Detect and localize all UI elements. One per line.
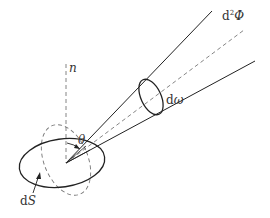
solid-angle-label-omega: ω (174, 93, 184, 107)
inner-ray-2 (66, 146, 86, 163)
normal-label: n (69, 61, 77, 75)
area-label: dS (20, 194, 36, 208)
theta-label: θ (78, 133, 86, 147)
cone-axis (66, 30, 244, 163)
area-label-s: S (28, 194, 36, 208)
area-pointer-arrowhead (36, 172, 41, 179)
cone-lower-edge (66, 61, 255, 163)
radiometry-diagram: n θ dω d2Φ dS (0, 0, 270, 218)
solid-angle-ellipse (134, 76, 168, 119)
inner-ray-1 (66, 150, 90, 163)
flux-label: d2Φ (222, 9, 244, 23)
flux-label-phi: Φ (234, 9, 244, 23)
solid-angle-label: dω (166, 93, 184, 107)
